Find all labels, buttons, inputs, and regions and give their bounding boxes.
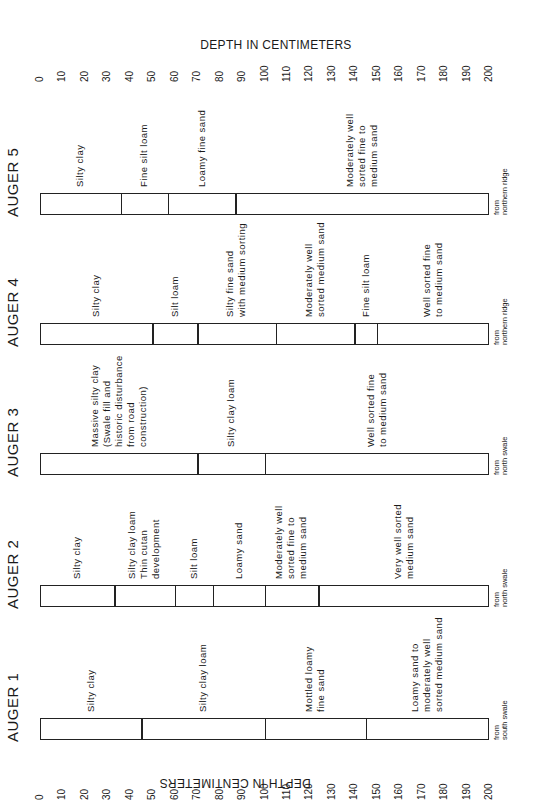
top-axis-tick: 10 xyxy=(56,71,67,82)
bottom-axis-tick: 110 xyxy=(281,784,292,800)
layer-label: Well sorted fine to medium sand xyxy=(365,372,389,447)
layer-label: Loamy sand xyxy=(233,522,245,579)
top-axis-tick: 100 xyxy=(259,65,270,82)
layer-boundary xyxy=(141,719,143,739)
bottom-axis-tick: 130 xyxy=(326,783,337,800)
bottom-axis-tick: 70 xyxy=(191,789,202,800)
layer-label: Silty clay loam Thin cutan development xyxy=(126,511,162,579)
bottom-axis-tick: 100 xyxy=(259,783,270,800)
layer-label: Mottled loamy fine sand xyxy=(303,646,327,712)
bottom-axis-tick: 50 xyxy=(146,789,157,800)
layer-label: Silty fine sand with medium sorting xyxy=(224,223,248,317)
auger-source-note: from north swale xyxy=(493,437,509,475)
layer-boundary xyxy=(265,586,267,606)
bottom-axis-tick: 80 xyxy=(214,789,225,800)
top-axis-tick: 200 xyxy=(483,65,494,82)
layer-label: Silt loam xyxy=(169,276,181,317)
auger-title: AUGER 3 xyxy=(4,408,21,477)
layer-label: Moderately well sorted fine to medium sa… xyxy=(344,114,380,188)
top-axis-tick: 170 xyxy=(416,65,427,82)
bottom-axis-tick: 20 xyxy=(79,789,90,800)
bottom-axis-tick: 150 xyxy=(371,783,382,800)
top-axis-tick: 150 xyxy=(371,65,382,82)
layer-label: Silty clay loam xyxy=(197,644,209,712)
layer-label: Silty clay xyxy=(90,275,102,317)
auger-title: AUGER 1 xyxy=(4,673,21,742)
auger-title: AUGER 2 xyxy=(4,540,21,609)
auger-title: AUGER 4 xyxy=(4,278,21,347)
layer-label: Loamy fine sand xyxy=(196,110,208,187)
bottom-axis-tick: 200 xyxy=(483,783,494,800)
auger-source-note: from northern ridge xyxy=(493,298,509,345)
top-axis-tick: 70 xyxy=(191,71,202,82)
top-axis-tick: 140 xyxy=(348,65,359,82)
layer-boundary xyxy=(265,454,267,474)
layer-label: Fine silt loam xyxy=(138,124,150,187)
top-axis-tick: 130 xyxy=(326,65,337,82)
layer-boundary xyxy=(265,719,267,739)
bottom-axis-tick: 120 xyxy=(303,783,314,800)
top-axis-tick: 110 xyxy=(281,66,292,82)
layer-label: Silt loam xyxy=(188,538,200,579)
auger-profile-diagram: DEPTH IN CENTIMETERS DEPTH IN CENTIMETER… xyxy=(0,0,539,810)
layer-label: Silty clay xyxy=(74,145,86,187)
layer-label: Moderately well sorted fine to medium sa… xyxy=(273,506,309,580)
auger-core xyxy=(40,585,489,607)
auger-core xyxy=(40,323,489,345)
layer-boundary xyxy=(354,324,356,344)
layer-boundary xyxy=(276,324,278,344)
bottom-axis-tick: 170 xyxy=(416,783,427,800)
auger-core xyxy=(40,453,489,475)
top-axis-tick: 0 xyxy=(34,76,45,82)
top-axis-tick: 190 xyxy=(461,65,472,82)
layer-label: Silty clay loam xyxy=(225,379,237,447)
layer-boundary xyxy=(318,586,320,606)
layer-boundary xyxy=(121,194,123,214)
top-axis-tick: 180 xyxy=(438,65,449,82)
bottom-axis-tick: 140 xyxy=(348,783,359,800)
layer-label: Moderately well sorted medium sand xyxy=(303,222,327,317)
top-axis-tick: 90 xyxy=(236,71,247,82)
bottom-axis-tick: 60 xyxy=(169,789,180,800)
top-axis-tick: 30 xyxy=(101,71,112,82)
bottom-axis-tick: 190 xyxy=(461,783,472,800)
layer-label: Fine silt loam xyxy=(360,254,372,317)
top-axis-tick: 120 xyxy=(303,65,314,82)
layer-boundary xyxy=(152,324,154,344)
layer-boundary xyxy=(114,586,116,606)
axis-title-top: DEPTH IN CENTIMETERS xyxy=(186,38,366,52)
layer-label: Massive silty clay (Swale fill and histo… xyxy=(89,355,149,447)
bottom-axis-tick: 160 xyxy=(393,783,404,800)
layer-boundary xyxy=(235,194,237,214)
layer-boundary xyxy=(377,324,379,344)
top-axis-tick: 80 xyxy=(214,71,225,82)
layer-boundary xyxy=(175,586,177,606)
layer-boundary xyxy=(197,454,199,474)
top-axis-tick: 20 xyxy=(79,71,90,82)
auger-core xyxy=(40,193,489,215)
auger-source-note: from northern ridge xyxy=(493,168,509,215)
layer-label: Silty clay xyxy=(85,670,97,712)
top-axis-tick: 160 xyxy=(393,65,404,82)
top-axis-tick: 60 xyxy=(169,71,180,82)
layer-boundary xyxy=(213,586,215,606)
bottom-axis-tick: 0 xyxy=(34,794,45,800)
layer-label: Well sorted fine to medium sand xyxy=(421,242,445,317)
top-axis-tick: 40 xyxy=(124,71,135,82)
bottom-axis-tick: 90 xyxy=(236,789,247,800)
layer-boundary xyxy=(168,194,170,214)
bottom-axis-tick: 10 xyxy=(56,789,67,800)
auger-source-note: from north swale xyxy=(493,569,509,607)
bottom-axis-tick: 40 xyxy=(124,789,135,800)
top-axis-tick: 50 xyxy=(146,71,157,82)
bottom-axis-tick: 30 xyxy=(101,789,112,800)
auger-source-note: from south swale xyxy=(493,700,509,740)
auger-core xyxy=(40,718,489,740)
layer-label: Very well sorted medium sand xyxy=(392,504,416,579)
auger-title: AUGER 5 xyxy=(4,148,21,217)
layer-boundary xyxy=(197,324,199,344)
layer-label: Loamy sand to moderately well sorted med… xyxy=(409,617,445,712)
layer-label: Silty clay xyxy=(71,537,83,579)
layer-boundary xyxy=(366,719,368,739)
bottom-axis-tick: 180 xyxy=(438,783,449,800)
